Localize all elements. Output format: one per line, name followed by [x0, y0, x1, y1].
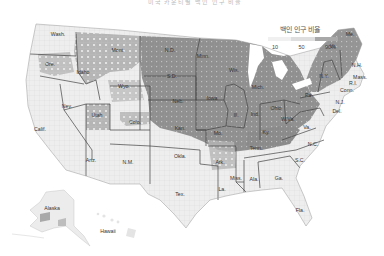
state-label: La.: [218, 186, 225, 192]
state-label: R.I.: [349, 80, 357, 86]
legend-color-bar: [268, 37, 338, 41]
state-label: N.Y.: [319, 73, 328, 79]
state-label: S.C.: [295, 157, 305, 163]
state-label: Ark.: [215, 159, 224, 165]
state-label: Wyo.: [118, 83, 130, 89]
legend-tick-50: 50: [298, 44, 304, 50]
legend-swatch-mid: [291, 37, 314, 41]
state-label: N.M.: [123, 159, 134, 165]
state-label: N.J.: [335, 99, 344, 105]
state-label: Ind.: [251, 111, 260, 117]
state-label: W.Va.: [281, 116, 294, 122]
state-label: Tex.: [175, 191, 185, 197]
state-label: S.D.: [167, 73, 177, 79]
state-label: Wash.: [51, 31, 66, 37]
state-label: Ill.: [233, 112, 238, 118]
state-label: Va.: [303, 124, 310, 130]
state-label: Ga.: [275, 175, 283, 181]
state-label: Alaska: [44, 205, 60, 211]
state-label: Idaho: [77, 69, 90, 75]
state-label: Ky.: [262, 129, 269, 135]
legend: 백인 인구 비율 10 50 90%: [268, 24, 338, 50]
state-label: Iowa: [207, 95, 218, 101]
state-label: Del.: [332, 108, 341, 114]
state-label: Fla.: [296, 207, 305, 213]
state-label: Minn.: [197, 53, 210, 59]
state-label: Calif.: [34, 126, 46, 132]
state-label: Colo.: [129, 119, 141, 125]
legend-swatch-high: [315, 37, 338, 41]
legend-swatch-low: [268, 37, 291, 41]
state-label: N.C.: [308, 141, 318, 147]
state-label: N.H.: [352, 62, 362, 68]
state-label: Ala.: [250, 176, 259, 182]
state-label: Pa.: [305, 92, 313, 98]
alaska: [12, 190, 90, 246]
legend-title: 백인 인구 비율: [262, 24, 338, 34]
state-label: Mo.: [214, 130, 223, 136]
state-label: Utah: [92, 112, 103, 118]
state-label: Wis.: [229, 67, 239, 73]
state-label: Ariz.: [86, 157, 96, 163]
state-label: Conn.: [340, 87, 354, 93]
legend-ticks: 10 50 90%: [268, 44, 338, 50]
state-label: N.D.: [165, 47, 175, 53]
state-label: Mich.: [252, 84, 264, 90]
hawaii: [97, 213, 136, 238]
legend-tick-10: 10: [272, 44, 278, 50]
state-label: Me.: [346, 31, 355, 37]
state-label: Ohio: [271, 105, 282, 111]
state-label: Mont.: [112, 47, 125, 53]
state-label: Neb.: [173, 98, 184, 104]
state-label: Miss.: [230, 175, 242, 181]
state-label: Tenn.: [250, 145, 263, 151]
state-label: Nev.: [62, 103, 72, 109]
state-label: Kan.: [175, 125, 186, 131]
legend-tick-90: 90%: [325, 44, 336, 50]
state-label: Okla.: [174, 153, 186, 159]
state-label: Ore.: [45, 61, 55, 67]
state-label: Hawaii: [100, 228, 116, 234]
